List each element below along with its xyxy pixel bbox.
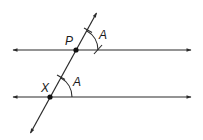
point-x-dot: [47, 94, 52, 99]
point-p-dot: [73, 47, 78, 52]
label-x: X: [40, 81, 50, 95]
label-p: P: [65, 34, 73, 48]
geometry-diagram: P X A A: [0, 0, 203, 140]
upper-angle-arc: [87, 31, 98, 50]
label-angle-lower: A: [72, 75, 81, 89]
label-angle-upper: A: [98, 28, 107, 42]
lower-angle-arc: [61, 78, 72, 97]
lower-arc-tick: [57, 75, 65, 80]
